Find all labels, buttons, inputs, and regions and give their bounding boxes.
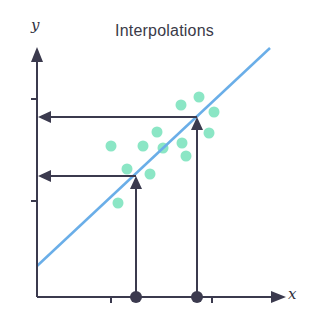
data-point: [152, 127, 163, 138]
data-point: [113, 198, 124, 209]
data-point: [138, 141, 149, 152]
data-point: [209, 107, 220, 118]
data-point: [122, 164, 133, 175]
trend-line: [37, 48, 270, 266]
left-arrow-icon: [38, 111, 51, 123]
data-point: [176, 100, 187, 111]
y-axis-arrow-icon: [31, 47, 43, 62]
data-point: [194, 92, 205, 103]
x-axis-arrow-icon: [271, 291, 286, 303]
data-point: [145, 169, 156, 180]
data-point: [177, 138, 188, 149]
data-point: [106, 141, 117, 152]
data-point: [204, 128, 215, 139]
plot-area: [0, 0, 317, 323]
data-point: [181, 151, 192, 162]
left-arrow-icon: [38, 170, 51, 182]
interpolation-chart: Interpolations y x: [0, 0, 317, 323]
